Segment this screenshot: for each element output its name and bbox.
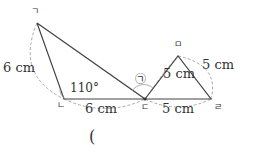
vertex-label: ㄴ bbox=[57, 100, 65, 110]
length-label: 6 cm bbox=[85, 101, 117, 116]
vertex-label: ㄱ bbox=[31, 6, 39, 16]
vertex-label: ㅁ bbox=[174, 39, 182, 49]
arc-left bbox=[30, 23, 64, 99]
answer-blank: ( bbox=[89, 127, 95, 146]
vertex-label: ㄷ bbox=[141, 102, 149, 112]
vertex-label: ㄹ bbox=[214, 102, 222, 112]
angle-label: 110° bbox=[70, 81, 99, 95]
length-label: 5 cm bbox=[162, 101, 194, 116]
length-label: 6 cm bbox=[3, 60, 35, 75]
length-label: 5 cm bbox=[163, 66, 195, 81]
angle-marker-label: ㉠ bbox=[135, 73, 146, 86]
geometry-diagram: ㄱ ㄴ ㄷ ㄹ ㅁ 6 cm 110° 6 cm 5 cm 5 cm 5 cm … bbox=[0, 0, 253, 156]
length-label: 5 cm bbox=[202, 57, 234, 72]
